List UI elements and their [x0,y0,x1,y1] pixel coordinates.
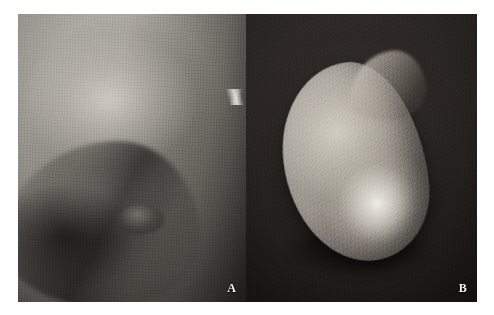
panel-label-b: B [459,282,467,294]
panel-label-a: A [227,282,236,294]
panel-b: B [246,14,477,302]
panel-a-photograph [18,14,246,302]
figure-root: A B [0,0,494,315]
panel-a: A [18,14,246,302]
